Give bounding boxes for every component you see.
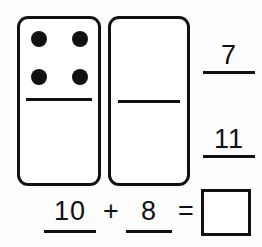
bottom-side-blank-rule: [203, 155, 255, 158]
equation-addend-1[interactable]: 10: [44, 196, 96, 233]
right-domino[interactable]: [108, 16, 190, 186]
equation-addend-2[interactable]: 8: [126, 196, 172, 233]
left-domino-top-half: [20, 19, 98, 98]
equation-addend-2-rule: [126, 230, 172, 233]
bottom-side-blank-value: 11: [203, 124, 255, 154]
top-side-blank[interactable]: 7: [203, 40, 255, 74]
pip-dot-icon: [72, 69, 88, 85]
pip-dot-icon: [72, 31, 88, 47]
equation-answer-box[interactable]: [201, 189, 251, 236]
top-side-blank-value: 7: [203, 40, 255, 70]
equals-operator: =: [172, 196, 200, 226]
pip-dot-icon: [31, 69, 47, 85]
left-domino[interactable]: [17, 16, 101, 186]
right-domino-bottom-half: [111, 101, 187, 186]
bottom-side-blank[interactable]: 11: [203, 124, 255, 158]
left-domino-bottom-half: [20, 101, 98, 186]
pip-dot-icon: [31, 31, 47, 47]
top-side-blank-rule: [203, 71, 255, 74]
equation-addend-1-rule: [44, 230, 96, 233]
right-domino-top-half: [111, 19, 187, 98]
domino-worksheet: 7 11 10 + 8 =: [0, 0, 262, 247]
equation-row: 10 + 8 =: [30, 196, 256, 242]
equation-addend-1-value: 10: [44, 196, 96, 226]
plus-operator: +: [96, 196, 126, 226]
equation-addend-2-value: 8: [126, 196, 172, 226]
